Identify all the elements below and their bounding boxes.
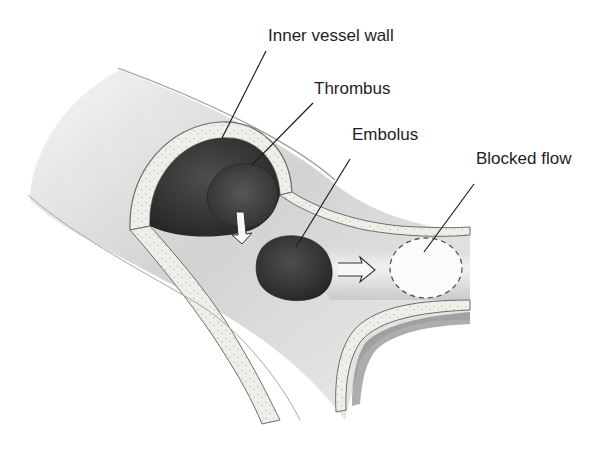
label-thrombus: Thrombus [314, 80, 391, 97]
label-embolus: Embolus [352, 126, 418, 143]
vessel-diagram: Inner vessel wall Thrombus Embolus Block… [0, 0, 614, 449]
label-inner-vessel-wall: Inner vessel wall [268, 27, 394, 44]
label-blocked-flow: Blocked flow [476, 150, 571, 167]
vessel-illustration [0, 0, 614, 449]
blocked-flow-region [390, 238, 462, 298]
